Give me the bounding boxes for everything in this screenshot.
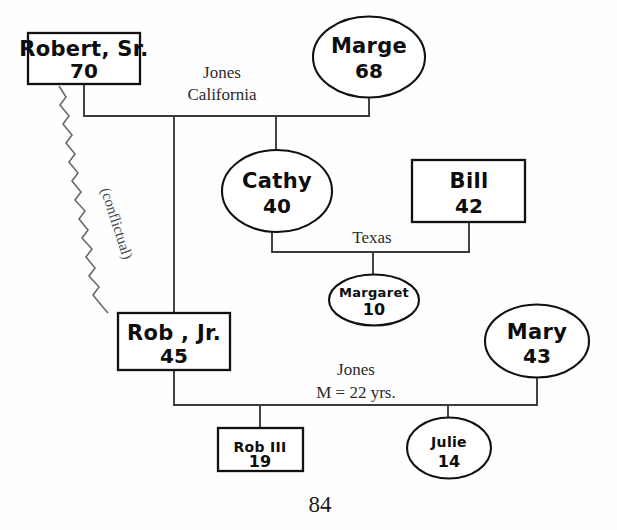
union-label-location: Texas	[352, 228, 391, 247]
person-node-julie[interactable]: Julie 14	[407, 418, 491, 479]
person-node-mary[interactable]: Mary 43	[485, 305, 589, 378]
union-label-robertsr-marge: Jones California	[188, 63, 257, 104]
cathy-age: 40	[263, 194, 291, 218]
person-node-robert-sr[interactable]: Robert, Sr. 70	[19, 33, 148, 84]
julie-age: 14	[438, 452, 460, 471]
rob-jr-age: 45	[160, 344, 188, 368]
cathy-name: Cathy	[242, 169, 312, 193]
margaret-age: 10	[363, 300, 385, 319]
person-node-rob-iii[interactable]: Rob III 19	[218, 428, 303, 471]
union-label-robjr-mary: Jones M = 22 yrs.	[316, 360, 395, 402]
person-node-bill[interactable]: Bill 42	[412, 160, 525, 222]
union-label-marriage-duration: M = 22 yrs.	[316, 383, 395, 402]
genogram-page: Robert, Sr. 70 Marge 68 Cathy 40 Bill 42…	[0, 0, 617, 530]
robert-sr-name: Robert, Sr.	[19, 37, 148, 61]
marge-name: Marge	[331, 34, 407, 58]
bill-name: Bill	[450, 169, 489, 193]
mary-age: 43	[523, 344, 551, 368]
conflictual-relationship-label: (conflictual)	[97, 186, 136, 262]
union-label-location: California	[188, 85, 257, 104]
robert-sr-age: 70	[70, 59, 98, 83]
union-label-cathy-bill: Texas	[352, 228, 391, 247]
margaret-name: Margaret	[339, 285, 409, 300]
rob-iii-age: 19	[249, 452, 271, 471]
union-label-surname: Jones	[337, 360, 375, 379]
genogram-canvas: Robert, Sr. 70 Marge 68 Cathy 40 Bill 42…	[0, 0, 617, 530]
person-node-marge[interactable]: Marge 68	[313, 17, 425, 98]
rob-jr-name: Rob , Jr.	[127, 321, 221, 345]
page-number: 84	[309, 492, 333, 517]
person-node-cathy[interactable]: Cathy 40	[222, 150, 332, 232]
marge-age: 68	[355, 59, 383, 83]
union-label-surname: Jones	[203, 63, 241, 82]
person-node-rob-jr[interactable]: Rob , Jr. 45	[118, 313, 230, 370]
mary-name: Mary	[507, 320, 567, 344]
julie-name: Julie	[430, 434, 467, 450]
bill-age: 42	[455, 194, 483, 218]
person-node-margaret[interactable]: Margaret 10	[329, 275, 419, 326]
